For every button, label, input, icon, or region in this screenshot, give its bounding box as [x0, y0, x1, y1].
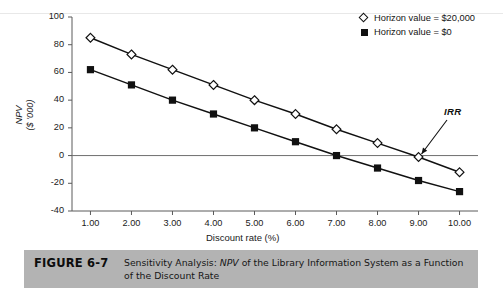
x-tick-label: 10.00: [438, 218, 482, 228]
x-tick-label: 6.00: [274, 218, 318, 228]
y-axis-title-line2: ($ '000): [25, 99, 35, 130]
x-tick-label: 2.00: [109, 218, 153, 228]
x-tick-label: 7.00: [315, 218, 359, 228]
x-tick-label: 1.00: [68, 218, 112, 228]
caption-italic-npv: NPV: [220, 257, 239, 268]
y-tick-label: -20: [22, 177, 64, 187]
chart-legend: Horizon value = $20,000 Horizon value = …: [358, 11, 503, 39]
irr-arrow: [422, 120, 447, 154]
x-tick-label: 5.00: [232, 218, 276, 228]
open-diamond-icon: [358, 12, 371, 24]
legend-label-horizon-0: Horizon value = $0: [374, 27, 452, 37]
x-tick-label: 9.00: [397, 218, 441, 228]
legend-label-horizon-20000: Horizon value = $20,000: [374, 13, 475, 23]
filled-square-icon: [358, 26, 371, 38]
irr-annotation-label: IRR: [444, 106, 461, 117]
figure-caption-text: Sensitivity Analysis: NPV of the Library…: [124, 257, 470, 282]
chart-axes: [68, 17, 478, 215]
y-axis-title-line1: NPV: [14, 105, 24, 124]
figure-container: 100806040200-20-40 1.002.003.004.005.006…: [0, 0, 503, 303]
y-tick-label: 60: [22, 66, 64, 76]
legend-item-horizon-20000: Horizon value = $20,000: [358, 11, 503, 25]
x-tick-label: 8.00: [356, 218, 400, 228]
y-tick-label: 100: [22, 11, 64, 21]
chart-series-group: [86, 33, 464, 195]
y-axis-title: NPV ($ '000): [14, 80, 36, 150]
caption-prefix: Sensitivity Analysis:: [124, 257, 220, 268]
figure-number-label: FIGURE 6-7: [34, 256, 108, 270]
x-tick-label: 4.00: [191, 218, 235, 228]
y-tick-label: -40: [22, 205, 64, 215]
y-tick-label: 80: [22, 39, 64, 49]
y-tick-label: 0: [22, 150, 64, 160]
figure-caption-bar: FIGURE 6-7 Sensitivity Analysis: NPV of …: [24, 250, 478, 288]
x-tick-label: 3.00: [150, 218, 194, 228]
x-axis-title: Discount rate (%): [206, 232, 279, 243]
legend-item-horizon-0: Horizon value = $0: [358, 25, 503, 39]
